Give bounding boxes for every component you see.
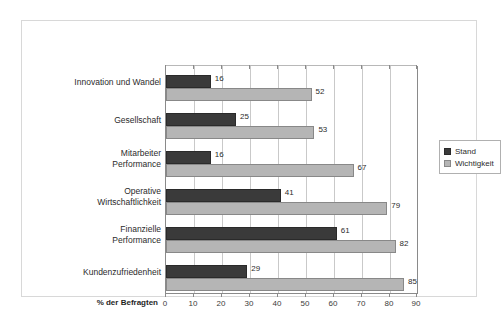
legend: Stand Wichtigkeit <box>439 140 501 174</box>
chart-frame: Innovation und Wandel Gesellschaft Mitar… <box>21 20 477 297</box>
gridline-90 <box>417 66 418 293</box>
x-tick-top-50 <box>305 65 306 69</box>
x-tick-top-20 <box>221 65 222 69</box>
x-tick-label-70: 70 <box>349 299 373 308</box>
x-tick-top-40 <box>277 65 278 69</box>
bar-stand <box>166 151 211 164</box>
legend-swatch-icon <box>444 160 451 167</box>
x-tick-label-60: 60 <box>321 299 345 308</box>
x-tick-10 <box>193 293 194 297</box>
bar-wichtigkeit <box>166 126 314 139</box>
x-tick-0 <box>165 293 166 297</box>
x-tick-top-60 <box>333 65 334 69</box>
plot-area: 16 52 25 53 16 67 41 79 61 82 29 85 <box>165 65 417 293</box>
x-tick-label-80: 80 <box>377 299 401 308</box>
bar-stand <box>166 113 236 126</box>
x-tick-40 <box>277 293 278 297</box>
x-tick-label-10: 10 <box>181 299 205 308</box>
x-tick-top-30 <box>249 65 250 69</box>
x-tick-top-70 <box>361 65 362 69</box>
x-tick-top-10 <box>193 65 194 69</box>
bar-stand <box>166 227 337 240</box>
x-tick-50 <box>305 293 306 297</box>
category-label: Gesellschaft <box>31 115 161 126</box>
bar-stand <box>166 75 211 88</box>
bar-value-label: 16 <box>215 74 224 83</box>
legend-swatch-icon <box>444 148 451 155</box>
bar-value-label: 61 <box>341 226 350 235</box>
category-label: Kundenzufriedenheit <box>31 267 161 278</box>
category-label: Mitarbeiter Performance <box>31 148 161 169</box>
legend-item-wichtigkeit: Wichtigkeit <box>444 157 494 169</box>
gridline-70 <box>362 66 363 293</box>
gridline-80 <box>390 66 391 293</box>
bar-value-label: 67 <box>358 163 367 172</box>
bar-stand <box>166 189 281 202</box>
x-tick-top-90 <box>416 65 417 69</box>
x-axis-title: % der Befragten <box>56 298 158 307</box>
bar-value-label: 53 <box>318 125 327 134</box>
x-tick-80 <box>389 293 390 297</box>
x-tick-90 <box>416 293 417 297</box>
bar-value-label: 82 <box>400 239 409 248</box>
x-tick-top-80 <box>389 65 390 69</box>
x-tick-20 <box>221 293 222 297</box>
legend-label: Wichtigkeit <box>455 159 494 168</box>
x-tick-60 <box>333 293 334 297</box>
legend-label: Stand <box>455 147 476 156</box>
x-tick-label-50: 50 <box>293 299 317 308</box>
bar-value-label: 41 <box>285 188 294 197</box>
category-label: Innovation und Wandel <box>31 77 161 88</box>
x-tick-label-40: 40 <box>265 299 289 308</box>
bar-wichtigkeit <box>166 164 354 177</box>
category-label: Operative Wirtschaftlichkeit <box>31 186 161 207</box>
bar-wichtigkeit <box>166 240 396 253</box>
x-tick-label-30: 30 <box>237 299 261 308</box>
bar-wichtigkeit <box>166 278 404 291</box>
category-label: Finanzielle Performance <box>31 224 161 245</box>
bar-value-label: 85 <box>408 277 417 286</box>
bar-value-label: 79 <box>391 201 400 210</box>
legend-item-stand: Stand <box>444 145 494 157</box>
bar-value-label: 29 <box>251 264 260 273</box>
x-tick-label-90: 90 <box>404 299 428 308</box>
gridline-60 <box>334 66 335 293</box>
x-axis-line <box>165 293 418 294</box>
bar-wichtigkeit <box>166 88 312 101</box>
bar-value-label: 16 <box>215 150 224 159</box>
category-axis-labels: Innovation und Wandel Gesellschaft Mitar… <box>27 65 161 293</box>
x-tick-label-20: 20 <box>209 299 233 308</box>
bar-stand <box>166 265 247 278</box>
bar-value-label: 25 <box>240 112 249 121</box>
bar-wichtigkeit <box>166 202 387 215</box>
x-tick-30 <box>249 293 250 297</box>
x-tick-70 <box>361 293 362 297</box>
x-tick-top-0 <box>165 65 166 69</box>
bar-value-label: 52 <box>316 87 325 96</box>
